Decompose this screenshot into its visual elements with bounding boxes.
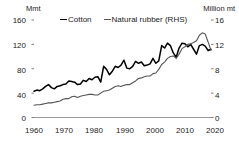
chart-container: Mmt Million mt Cotton Natural rubber (RH… <box>0 0 239 142</box>
plot-area <box>0 0 239 142</box>
left-axis-tick-marks <box>32 20 35 118</box>
series-line-cotton <box>34 43 211 91</box>
right-axis-tick-marks <box>211 20 214 118</box>
